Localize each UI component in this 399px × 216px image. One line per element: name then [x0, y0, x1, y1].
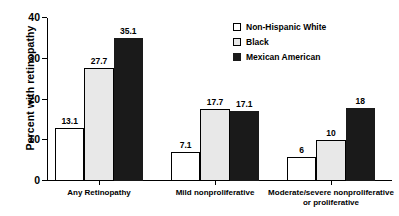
retinopathy-bar-chart: Percent with retinopathy 010203040 13.12…	[0, 0, 399, 216]
y-axis-title: Percent with retinopathy	[24, 0, 36, 178]
bar-value-label: 17.7	[207, 97, 224, 107]
legend-label-mexican-american: Mexican American	[246, 52, 320, 62]
bar-value-label: 35.1	[120, 26, 137, 36]
bar-value-label: 27.7	[91, 56, 108, 66]
y-tick-mark	[42, 139, 47, 140]
legend-item: Non-Hispanic White	[233, 19, 326, 34]
bar: 10	[316, 140, 345, 181]
legend-label-non-hispanic-white: Non-Hispanic White	[246, 22, 326, 32]
category-label-line: or proliferative	[256, 198, 399, 208]
y-axis-line	[47, 18, 48, 181]
bar: 6	[287, 157, 316, 181]
legend: Non-Hispanic White Black Mexican America…	[233, 19, 326, 64]
bar-value-label: 17.1	[236, 99, 253, 109]
bar-value-label: 13.1	[61, 116, 78, 126]
bar: 17.1	[230, 111, 259, 181]
bar: 18	[346, 108, 375, 181]
bar: 7.1	[171, 152, 200, 181]
y-tick-mark	[42, 58, 47, 59]
y-tick-label: 30	[28, 52, 40, 64]
bar-value-label: 6	[299, 145, 304, 155]
x-tick-mark	[331, 181, 332, 185]
y-tick-mark	[42, 180, 47, 181]
legend-item: Black	[233, 34, 326, 49]
y-tick-mark	[42, 17, 47, 18]
bar-value-label: 10	[326, 128, 335, 138]
legend-swatch-mexican-american	[233, 53, 241, 61]
y-tick-mark	[42, 99, 47, 100]
legend-label-black: Black	[246, 37, 269, 47]
bar-value-label: 18	[356, 96, 365, 106]
bar: 27.7	[84, 68, 113, 181]
bar: 35.1	[114, 38, 143, 181]
x-axis-category-label: Moderate/severe nonproliferativeor proli…	[256, 188, 399, 208]
bar-value-label: 7.1	[180, 140, 192, 150]
legend-swatch-non-hispanic-white	[233, 23, 241, 31]
plot-area: 010203040 13.127.735.17.117.717.161018	[47, 18, 392, 181]
x-tick-mark	[215, 181, 216, 185]
category-label-line: Moderate/severe nonproliferative	[256, 188, 399, 198]
bar: 13.1	[55, 128, 84, 181]
y-tick-label: 0	[34, 174, 40, 186]
y-tick-label: 10	[28, 133, 40, 145]
y-tick-label: 40	[28, 11, 40, 23]
y-tick-label: 20	[28, 93, 40, 105]
legend-item: Mexican American	[233, 49, 326, 64]
x-tick-mark	[99, 181, 100, 185]
bar: 17.7	[200, 109, 229, 181]
legend-swatch-black	[233, 38, 241, 46]
